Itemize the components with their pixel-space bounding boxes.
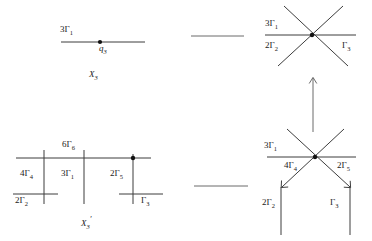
- figure-canvas: 3Γ1 q3 X3 3Γ1 2Γ2 Γ3: [0, 0, 372, 241]
- label-gamma3-bottom-right: Γ3: [330, 198, 338, 209]
- panel-bottom-right: 3Γ1 4Γ4 2Γ5 2Γ2 Γ3: [250, 125, 372, 241]
- caption-x3-prime: X3′: [81, 216, 92, 230]
- label-2gamma5-bottom-right: 2Γ5: [337, 161, 350, 172]
- connector-top-horizontal-graphic: [186, 26, 258, 46]
- label-6gamma6: 6Γ6: [62, 140, 75, 151]
- panel-top-right: 3Γ1 2Γ2 Γ3: [255, 0, 372, 80]
- star-center-point: [310, 33, 314, 37]
- connector-top-horizontal: [186, 26, 258, 46]
- panel-top-left-graphic: [0, 0, 186, 110]
- label-2gamma2-bottom-left: 2Γ2: [15, 196, 28, 207]
- label-3gamma1-top-left: 3Γ1: [60, 25, 73, 36]
- label-gamma3-top-right: Γ3: [342, 41, 350, 52]
- label-4gamma4: 4Γ4: [20, 169, 33, 180]
- comb-point-marker: [131, 156, 135, 160]
- label-q3: q3: [99, 44, 107, 55]
- label-gamma3-bottom-left: Γ3: [141, 196, 149, 207]
- label-2gamma2-top-right: 2Γ2: [265, 41, 278, 52]
- label-2gamma5-bottom-left: 2Γ5: [110, 169, 123, 180]
- panel-top-left: 3Γ1 q3 X3: [0, 0, 186, 110]
- label-3gamma1-top-right: 3Γ1: [265, 19, 278, 30]
- branch-diagonal-down-right: [287, 129, 350, 187]
- label-4gamma4-bottom-right: 4Γ4: [284, 161, 297, 172]
- star-center-point: [313, 155, 317, 159]
- panel-bottom-left-graphic: [0, 128, 186, 241]
- branch-diagonal-up-right: [282, 129, 344, 187]
- panel-bottom-left: 6Γ6 4Γ4 3Γ1 2Γ5 2Γ2 Γ3 X3′: [0, 128, 186, 241]
- label-3gamma1-bottom-right: 3Γ1: [264, 141, 277, 152]
- label-2gamma2-bottom-right: 2Γ2: [262, 198, 275, 209]
- branch-diagonal-down-right: [284, 6, 348, 66]
- label-3gamma1-bottom-left: 3Γ1: [61, 169, 74, 180]
- caption-x3: X3: [89, 67, 98, 81]
